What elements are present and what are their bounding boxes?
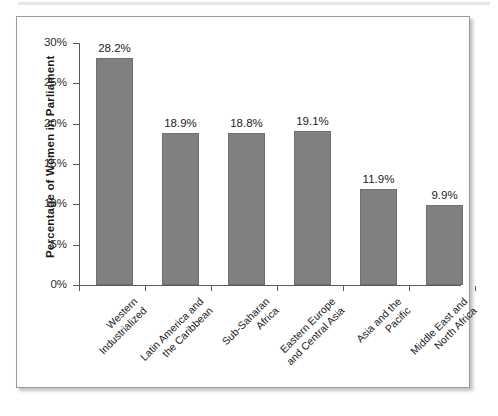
x-axis-tick [343,286,344,291]
bar-value-label: 18.8% [217,118,277,130]
y-axis-tick-label: 25% [21,77,67,89]
bar-value-label: 19.1% [283,116,343,128]
scan-artifact-line [18,2,490,5]
bar-value-label: 11.9% [349,174,409,186]
chart-figure-frame: Percentage of Women in Parliament 0%5%10… [16,16,470,388]
bar [360,189,397,285]
y-axis-tick-label: 15% [21,158,67,170]
y-axis-tick [73,164,79,165]
y-axis-tick-label: 20% [21,118,67,130]
x-axis-tick [409,286,410,291]
x-axis-tick [211,286,212,291]
x-axis-tick [475,286,476,291]
plot-area: Percentage of Women in Parliament 0%5%10… [17,17,471,389]
bar [294,131,331,285]
bar-value-label: 18.9% [151,118,211,130]
y-axis-tick-label: 10% [21,198,67,210]
x-axis-tick [145,286,146,291]
x-axis-tick [277,286,278,291]
y-axis-tick [73,204,79,205]
y-axis-tick-label: 5% [21,239,67,251]
x-axis-tick [79,286,80,291]
bar [162,133,199,285]
bar [426,205,463,285]
x-axis-label-line: Industrialized [26,304,148,416]
y-axis-tick [73,83,79,84]
bar [96,58,133,285]
y-axis-line [79,43,80,286]
y-axis-tick [73,43,79,44]
y-axis-tick [73,245,79,246]
y-axis-tick-label: 30% [21,37,67,49]
bar-value-label: 9.9% [415,190,475,202]
bar-value-label: 28.2% [85,43,145,55]
x-axis-line [79,285,461,286]
y-axis-tick-label: 0% [21,279,67,291]
y-axis-tick [73,124,79,125]
bar [228,133,265,285]
